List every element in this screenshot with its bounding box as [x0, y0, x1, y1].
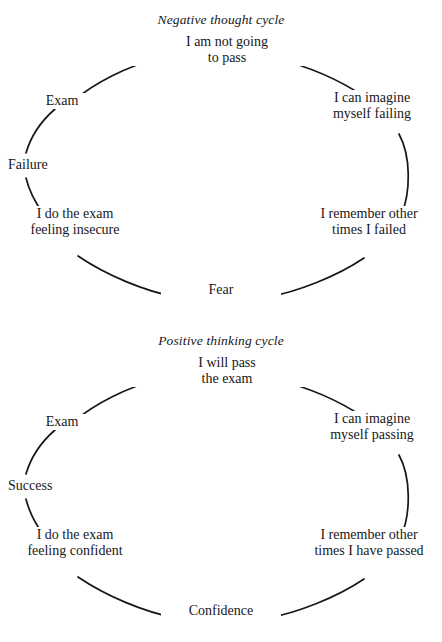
node-left-middle: Failure — [2, 157, 84, 173]
node-right-upper-line1: I can imagine — [302, 411, 442, 427]
node-right-upper: I can imagine myself failing — [302, 90, 442, 122]
arc-imagine-to-remember — [399, 134, 408, 216]
node-left-middle-label: Failure — [8, 157, 84, 173]
node-top: I am not going to pass — [121, 34, 333, 66]
node-right-lower: I remember other times I failed — [296, 206, 442, 238]
node-left-middle-label: Success — [8, 478, 84, 494]
node-bottom: Confidence — [161, 603, 281, 619]
arc-success-to-exam — [26, 430, 55, 474]
arc-remember-to-confidence — [268, 579, 364, 618]
node-bottom: Fear — [161, 282, 281, 298]
node-right-lower-line2: times I failed — [296, 222, 442, 238]
node-right-upper-line2: myself failing — [302, 106, 442, 122]
node-right-lower: I remember other times I have passed — [296, 527, 442, 559]
node-left-middle: Success — [2, 478, 84, 494]
figure-canvas: Negative thought cycle I am not going to… — [0, 0, 442, 642]
arc-remember-to-fear — [268, 258, 364, 297]
node-right-upper-line2: myself passing — [302, 427, 442, 443]
node-left-upper: Exam — [22, 414, 102, 430]
node-left-lower-line1: I do the exam — [2, 206, 148, 222]
node-left-lower: I do the exam feeling insecure — [2, 206, 148, 238]
node-left-lower: I do the exam feeling confident — [2, 527, 148, 559]
positive-thinking-cycle: Positive thinking cycle I will pass the … — [0, 321, 442, 642]
node-right-lower-line1: I remember other — [296, 527, 442, 543]
node-right-upper: I can imagine myself passing — [302, 411, 442, 443]
negative-thought-cycle: Negative thought cycle I am not going to… — [0, 0, 442, 321]
node-left-lower-line2: feeling confident — [2, 543, 148, 559]
node-left-lower-line2: feeling insecure — [2, 222, 148, 238]
node-top-line1: I will pass — [127, 355, 327, 371]
node-bottom-label: Fear — [161, 282, 281, 298]
node-top-line2: the exam — [127, 371, 327, 387]
node-bottom-label: Confidence — [161, 603, 281, 619]
node-right-upper-line1: I can imagine — [302, 90, 442, 106]
node-top-line2: to pass — [127, 50, 327, 66]
node-right-lower-line2: times I have passed — [296, 543, 442, 559]
node-left-upper: Exam — [22, 93, 102, 109]
node-top: I will pass the exam — [121, 355, 333, 387]
node-top-line1: I am not going — [127, 34, 327, 50]
node-left-lower-line1: I do the exam — [2, 527, 148, 543]
arc-failure-to-exam — [26, 109, 55, 153]
node-left-upper-label: Exam — [22, 93, 102, 109]
arc-imagine-to-remember — [399, 455, 408, 537]
node-left-upper-label: Exam — [22, 414, 102, 430]
node-right-lower-line1: I remember other — [296, 206, 442, 222]
